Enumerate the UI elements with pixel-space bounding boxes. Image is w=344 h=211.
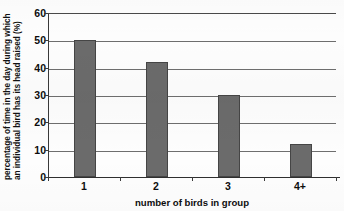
bar-chart: percentage of time in the day during whi… <box>0 0 344 211</box>
y-axis-tick-label: 0 <box>26 171 46 183</box>
y-axis-title: percentage of time in the day during whi… <box>0 0 24 182</box>
x-axis-title: number of birds in group <box>48 197 336 208</box>
x-axis-tick-mark <box>336 177 337 181</box>
x-axis-tick-labels: 1234+ <box>48 180 336 196</box>
y-axis-tick-mark <box>44 95 48 96</box>
y-axis-tick-label: 40 <box>26 62 46 74</box>
y-axis-tick-labels: 0102030405060 <box>24 0 46 182</box>
y-axis-tick-mark <box>44 150 48 151</box>
y-axis-tick-mark <box>44 122 48 123</box>
y-axis-tick-mark <box>44 40 48 41</box>
x-axis-tick-label: 1 <box>81 180 87 192</box>
bar <box>290 144 312 177</box>
y-axis-tick-mark <box>44 68 48 69</box>
x-axis-tick-label: 3 <box>225 180 231 192</box>
x-axis-line <box>48 177 340 178</box>
plot-area <box>48 13 336 177</box>
bar <box>74 40 96 177</box>
y-axis-tick-label: 60 <box>26 7 46 19</box>
y-axis-title-line-1: percentage of time in the day during whi… <box>2 13 12 180</box>
bar-series <box>49 14 336 177</box>
y-axis-tick-label: 30 <box>26 89 46 101</box>
bar <box>218 95 240 177</box>
x-axis-tick-label: 2 <box>153 180 159 192</box>
y-axis-tick-label: 50 <box>26 34 46 46</box>
bar <box>146 62 168 177</box>
y-axis-tick-label: 20 <box>26 116 46 128</box>
x-axis-tick-label: 4+ <box>294 180 306 192</box>
y-axis-tick-label: 10 <box>26 144 46 156</box>
y-axis-tick-mark <box>44 13 48 14</box>
y-axis-title-line-2: an individual bird has its head raised (… <box>12 21 22 180</box>
